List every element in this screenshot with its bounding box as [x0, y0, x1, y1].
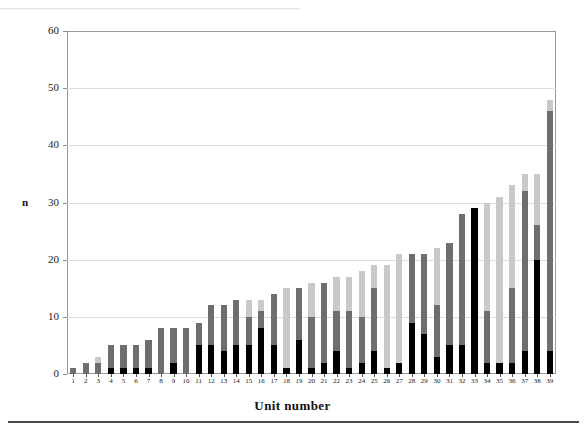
bar-segment-b — [484, 311, 490, 362]
bar — [233, 300, 239, 374]
y-tick-label: 30 — [23, 196, 59, 208]
bar — [158, 328, 164, 374]
bar-segment-a — [196, 345, 202, 374]
bar — [283, 288, 289, 374]
bar-segment-b — [409, 254, 415, 323]
bar-segment-c — [333, 277, 339, 311]
bar — [308, 283, 314, 374]
bar-segment-a — [308, 368, 314, 374]
bar-segment-b — [522, 191, 528, 351]
bar — [196, 323, 202, 374]
bar-segment-b — [534, 225, 540, 259]
bar-segment-a — [246, 345, 252, 374]
bar — [359, 271, 365, 374]
y-tick-label: 50 — [23, 81, 59, 93]
bar-segment-c — [496, 197, 502, 363]
bar-segment-a — [108, 368, 114, 374]
bar — [446, 243, 452, 374]
bar-segment-a — [221, 351, 227, 374]
bar-segment-b — [83, 363, 89, 374]
stacked-bar-chart: 0102030405060 12345678910111213141516171… — [0, 0, 585, 435]
bar-segment-b — [221, 305, 227, 351]
bar-segment-b — [258, 311, 264, 328]
bar — [208, 305, 214, 374]
bar — [371, 265, 377, 374]
bar-segment-b — [108, 345, 114, 368]
bar-segment-b — [421, 254, 427, 334]
bar — [547, 100, 553, 374]
bar-segment-b — [208, 305, 214, 345]
bar-segment-c — [434, 248, 440, 305]
bar-segment-c — [346, 277, 352, 311]
bar-segment-c — [246, 300, 252, 317]
bar — [396, 254, 402, 374]
bar-segment-b — [321, 283, 327, 363]
bar-segment-a — [208, 345, 214, 374]
bar-segment-a — [509, 363, 515, 374]
bar — [83, 363, 89, 374]
bar-segment-b — [196, 323, 202, 346]
bar-segment-b — [371, 288, 377, 351]
bar-segment-a — [133, 368, 139, 374]
bar-segment-b — [434, 305, 440, 356]
x-axis-title: Unit number — [0, 398, 585, 414]
bar-segment-b — [170, 328, 176, 362]
bar-segment-a — [321, 363, 327, 374]
bar-segment-c — [384, 265, 390, 368]
bar — [296, 288, 302, 374]
bar-segment-b — [308, 317, 314, 368]
bar-segment-c — [258, 300, 264, 311]
bar-segment-b — [509, 288, 515, 362]
bar-segment-a — [371, 351, 377, 374]
bar-segment-a — [359, 363, 365, 374]
bar-segment-c — [534, 174, 540, 225]
bar — [522, 174, 528, 374]
bar — [496, 197, 502, 374]
bar-segment-b — [95, 363, 101, 374]
bar-segment-a — [271, 345, 277, 374]
bar-segment-a — [120, 368, 126, 374]
bar-segment-a — [534, 260, 540, 374]
bar-segment-a — [547, 351, 553, 374]
bar-segment-a — [484, 363, 490, 374]
bar — [333, 277, 339, 374]
bar-segment-a — [346, 368, 352, 374]
bar-segment-a — [333, 351, 339, 374]
bar-segment-b — [446, 243, 452, 346]
bar — [434, 248, 440, 374]
bar-segment-a — [233, 345, 239, 374]
bar-segment-c — [359, 271, 365, 317]
bar-segment-a — [522, 351, 528, 374]
bar-segment-b — [233, 300, 239, 346]
bar — [221, 305, 227, 374]
bar — [421, 254, 427, 374]
bar-segment-b — [333, 311, 339, 351]
bar — [271, 294, 277, 374]
x-tick-label: 39 — [540, 377, 560, 385]
bar — [409, 254, 415, 374]
bar-segment-b — [158, 328, 164, 374]
bar — [509, 185, 515, 374]
bar-segment-b — [133, 345, 139, 368]
bar-segment-a — [283, 368, 289, 374]
bar-segment-a — [258, 328, 264, 374]
y-axis-title: n — [22, 196, 28, 208]
y-tick-label: 0 — [23, 367, 59, 379]
bar-segment-a — [471, 208, 477, 374]
bar-segment-a — [145, 368, 151, 374]
bar-segment-b — [246, 317, 252, 346]
bar-segment-b — [70, 368, 76, 374]
bar-segment-b — [547, 111, 553, 351]
bar — [484, 203, 490, 374]
bar — [321, 283, 327, 374]
bars-layer — [67, 31, 556, 374]
bar — [534, 174, 540, 374]
bar-segment-b — [359, 317, 365, 363]
bar-segment-a — [409, 323, 415, 374]
bar-segment-c — [308, 283, 314, 317]
bar-segment-b — [271, 294, 277, 345]
bar — [258, 300, 264, 374]
bar-segment-a — [384, 368, 390, 374]
bar-segment-b — [296, 288, 302, 339]
bar-segment-b — [183, 328, 189, 374]
